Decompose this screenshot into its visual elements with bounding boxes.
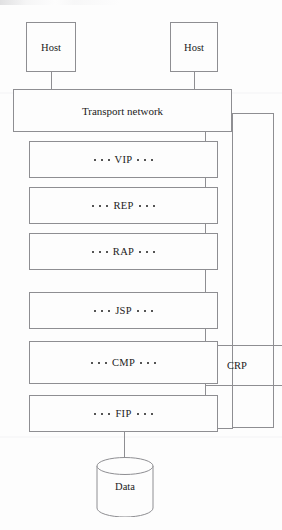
host-right-connector bbox=[194, 72, 195, 89]
layer-name: CMP bbox=[112, 357, 135, 368]
layer-box-jsp: JSP bbox=[29, 292, 218, 329]
dots-left bbox=[94, 310, 110, 312]
layer-label-jsp: JSP bbox=[94, 305, 153, 316]
layer-label-rap: RAP bbox=[92, 246, 155, 257]
dots-right bbox=[139, 205, 155, 207]
layer-name: REP bbox=[113, 200, 133, 211]
host-label: Host bbox=[41, 42, 61, 53]
protocol-stack-diagram: Host Host Transport network VIP REP RAP bbox=[0, 0, 282, 530]
dots-left bbox=[92, 251, 108, 253]
scan-artifact bbox=[0, 436, 282, 438]
layer-name: RAP bbox=[113, 246, 134, 257]
dots-left bbox=[94, 159, 110, 161]
host-left-connector bbox=[51, 72, 52, 89]
scan-artifact-top bbox=[0, 0, 120, 5]
layer-box-fip: FIP bbox=[29, 395, 218, 432]
layer-name: JSP bbox=[115, 305, 132, 316]
crp-label: CRP bbox=[227, 360, 247, 371]
dots-right bbox=[137, 310, 153, 312]
datastore-label: Data bbox=[96, 481, 154, 492]
layer-label-fip: FIP bbox=[94, 408, 152, 419]
dots-left bbox=[94, 413, 110, 415]
transport-network-box: Transport network bbox=[13, 89, 232, 132]
dots-right bbox=[137, 413, 153, 415]
dots-left bbox=[92, 205, 108, 207]
layer-name: FIP bbox=[115, 408, 131, 419]
datastore-cylinder: Data bbox=[96, 457, 154, 517]
host-box-right: Host bbox=[170, 22, 218, 72]
layer-name: VIP bbox=[115, 154, 133, 165]
dots-right bbox=[139, 251, 155, 253]
layer-box-cmp: CMP bbox=[29, 341, 218, 384]
layer-box-rep: REP bbox=[29, 187, 218, 224]
layer-label-vip: VIP bbox=[94, 154, 154, 165]
dots-left bbox=[91, 362, 107, 364]
host-label: Host bbox=[184, 42, 204, 53]
dots-right bbox=[140, 362, 156, 364]
datastore-connector bbox=[124, 432, 125, 458]
layer-label-cmp: CMP bbox=[91, 357, 156, 368]
dots-right bbox=[137, 159, 153, 161]
layer-label-rep: REP bbox=[92, 200, 154, 211]
layer-box-vip: VIP bbox=[29, 141, 218, 178]
host-box-left: Host bbox=[26, 22, 76, 72]
layer-box-rap: RAP bbox=[29, 233, 218, 270]
transport-network-label: Transport network bbox=[82, 105, 163, 117]
